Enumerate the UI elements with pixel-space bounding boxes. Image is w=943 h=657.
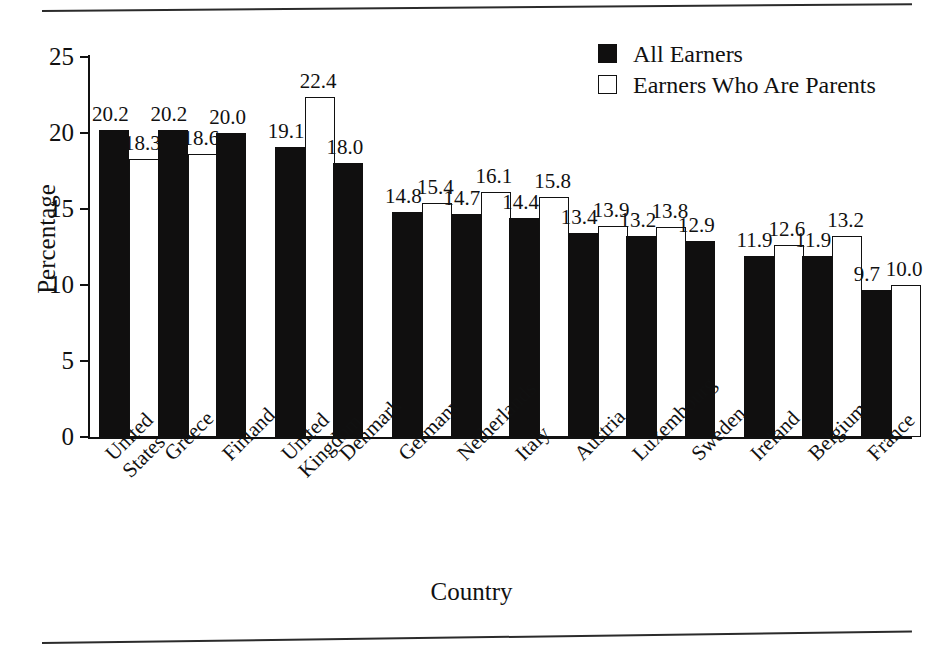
y-axis-line [88, 55, 90, 439]
bar-all-earners [275, 147, 305, 437]
bar-value-label: 18.6 [183, 128, 220, 149]
bar-all-earners [568, 233, 598, 437]
bar-earners-who-are-parents [539, 197, 569, 437]
bar-value-label: 18.3 [124, 133, 161, 154]
y-tick-mark [80, 436, 89, 438]
bar-value-label: 12.9 [678, 215, 715, 236]
bar-all-earners [802, 256, 832, 437]
legend-entry-earners-who-are-parents: Earners Who Are Parents [598, 69, 928, 100]
legend-entry-all-earners: All Earners [598, 38, 928, 69]
y-tick-mark [80, 284, 89, 286]
y-tick-mark [80, 132, 89, 134]
y-tick-label: 5 [0, 348, 74, 373]
y-tick-mark [80, 56, 89, 58]
bar-value-label: 16.1 [476, 166, 513, 187]
bar-all-earners [626, 236, 656, 437]
y-tick-label: 25 [0, 44, 74, 69]
legend-label-all-earners: All Earners [633, 42, 743, 66]
legend-swatch-filled-square-icon [598, 44, 617, 63]
bar-value-label: 20.0 [209, 107, 246, 128]
bar-all-earners [333, 163, 363, 437]
bar-value-label: 19.1 [268, 121, 305, 142]
bar-earners-who-are-parents [188, 154, 218, 437]
y-tick-mark [80, 360, 89, 362]
bar-value-label: 14.7 [444, 188, 481, 209]
x-axis-title: Country [0, 578, 943, 606]
bar-chart: 0510152025 Percentage Country 20.218.320… [0, 0, 943, 657]
bar-earners-who-are-parents [129, 159, 159, 437]
chart-legend: All Earners Earners Who Are Parents [598, 38, 928, 100]
bar-all-earners [216, 133, 246, 437]
bar-value-label: 20.2 [92, 104, 129, 125]
bar-value-label: 15.8 [534, 171, 571, 192]
y-axis-title: Percentage [33, 129, 61, 349]
bar-value-label: 9.7 [854, 264, 880, 285]
bar-value-label: 22.4 [300, 71, 337, 92]
legend-label-earners-who-are-parents: Earners Who Are Parents [633, 73, 876, 97]
bar-value-label: 20.2 [151, 104, 188, 125]
bar-all-earners [158, 130, 188, 437]
bar-all-earners [99, 130, 129, 437]
y-tick-mark [80, 208, 89, 210]
bar-value-label: 18.0 [326, 137, 363, 158]
bar-all-earners [744, 256, 774, 437]
bar-value-label: 14.4 [502, 192, 539, 213]
bar-value-label: 11.9 [795, 230, 831, 251]
bar-value-label: 13.2 [827, 210, 864, 231]
bar-value-label: 10.0 [886, 259, 923, 280]
bar-value-label: 11.9 [737, 230, 773, 251]
legend-swatch-hollow-square-icon [598, 75, 617, 94]
y-tick-label: 0 [0, 424, 74, 449]
